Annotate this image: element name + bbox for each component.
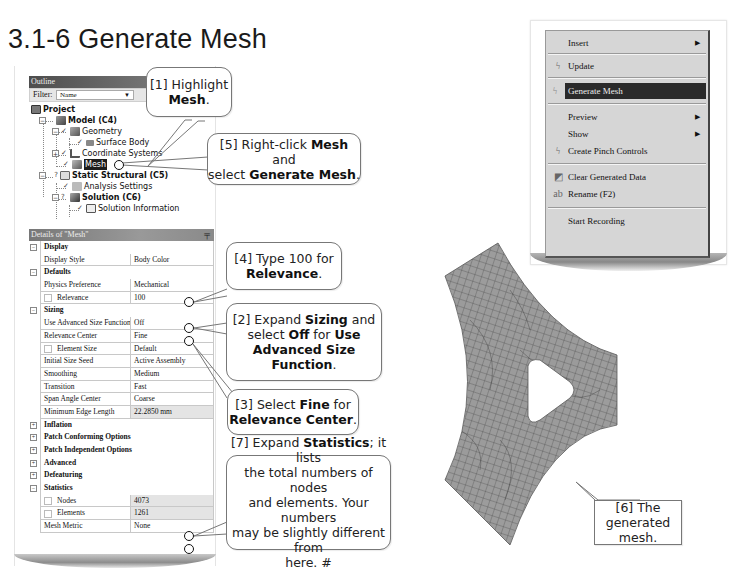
filter-dropdown[interactable]: Name ▼ (56, 90, 134, 100)
expand-toggle[interactable]: + (30, 460, 37, 467)
callout-step-6: [6] The generated mesh. (594, 500, 682, 545)
collapse-toggle[interactable]: − (39, 117, 46, 124)
details-grid: − Display Display Style Body Color − Def… (29, 241, 214, 533)
menu-item-show[interactable]: Show▶ (548, 126, 706, 142)
mesh-icon (72, 160, 82, 169)
tree-item-analysis-settings[interactable]: ✓ Analysis Settings (63, 181, 152, 192)
surface-body-icon (86, 140, 94, 146)
collapse-toggle[interactable]: − (30, 244, 37, 251)
geometry-icon (70, 127, 80, 136)
advanced-size-function-select[interactable]: Off (131, 317, 214, 330)
group-defeaturing[interactable]: + Defeaturing (29, 469, 214, 482)
step-marker-advanced-size (184, 323, 194, 333)
group-patch-independent-options[interactable]: + Patch Independent Options (29, 444, 214, 457)
context-menu: Insert▶ ϟUpdate ϟGenerate Mesh Preview▶ … (545, 30, 710, 258)
group-statistics[interactable]: − Statistics (29, 482, 214, 495)
step-marker-relevance-center (184, 336, 194, 346)
callout-step-1: [1] Highlight Mesh. (146, 67, 232, 117)
parameter-checkbox[interactable] (44, 510, 52, 518)
menu-item-start-recording[interactable]: Start Recording (548, 213, 706, 229)
page-title: 3.1-6 Generate Mesh (8, 24, 267, 55)
step-marker-nodes (184, 531, 194, 541)
project-icon (31, 105, 41, 114)
filter-label: Filter: (33, 90, 53, 99)
prop-nodes: Nodes 4073 (29, 495, 214, 508)
callout-step-2: [2] Expand Sizing and select Off for Use… (226, 303, 382, 381)
menu-item-clear-generated-data[interactable]: ◩Clear Generated Data (548, 169, 706, 185)
tree-item-static-structural[interactable]: − ? Static Structural (C5) (39, 170, 168, 181)
static-structural-icon (60, 171, 70, 180)
callout-step-4: [4] Type 100 for Relevance. (226, 242, 342, 290)
tree-item-mesh[interactable]: ✓ Mesh (63, 159, 107, 170)
checkmark-icon: ✓ (77, 137, 84, 148)
rename-icon: ab (552, 188, 564, 200)
menu-item-insert[interactable]: Insert▶ (548, 35, 706, 51)
relevance-center-select[interactable]: Fine (131, 330, 214, 343)
model-icon (56, 116, 66, 125)
menu-item-preview[interactable]: Preview▶ (548, 109, 706, 125)
group-display[interactable]: − Display (29, 241, 214, 254)
parameter-checkbox[interactable] (44, 497, 52, 505)
prop-smoothing[interactable]: Smoothing Medium (29, 368, 214, 381)
group-defaults[interactable]: − Defaults (29, 266, 214, 279)
collapse-toggle[interactable]: − (52, 194, 59, 201)
menu-item-update[interactable]: ϟUpdate (548, 58, 706, 74)
step-marker-mesh (114, 160, 124, 170)
checkmark-icon: ✓ (61, 126, 68, 137)
prop-physics-preference[interactable]: Physics Preference Mechanical (29, 279, 214, 292)
collapse-toggle[interactable]: − (52, 128, 59, 135)
parameter-checkbox[interactable] (44, 345, 52, 353)
prop-span-angle-center[interactable]: Span Angle Center Coarse (29, 393, 214, 406)
checkmark-icon: ✓ (61, 148, 68, 159)
expand-toggle[interactable]: + (30, 422, 37, 429)
submenu-arrow-icon: ▶ (695, 35, 700, 51)
lightning-icon: ϟ (549, 85, 561, 97)
analysis-settings-icon (72, 182, 82, 191)
clear-data-icon: ◩ (552, 171, 564, 183)
parameter-checkbox[interactable] (44, 294, 52, 302)
relevance-input[interactable]: 100 (131, 292, 214, 305)
collapse-toggle[interactable]: − (30, 485, 37, 492)
expand-toggle[interactable]: + (30, 434, 37, 441)
step-marker-elements (184, 544, 194, 554)
group-inflation[interactable]: + Inflation (29, 419, 214, 432)
menu-item-rename[interactable]: abRename (F2) (548, 186, 706, 202)
prop-elements: Elements 1261 (29, 507, 214, 520)
lightning-icon: ϟ (552, 60, 564, 72)
question-mark-icon: ? (48, 170, 58, 181)
tree-item-solution[interactable]: − ? Solution (C6) (52, 192, 141, 203)
collapse-toggle[interactable]: − (30, 269, 37, 276)
callout-step-5: [5] Right-click Mesh and select Generate… (207, 133, 361, 185)
tree-item-coordinate-systems[interactable]: + ✓ Coordinate Systems (52, 148, 162, 159)
prop-display-style[interactable]: Display Style Body Color (29, 254, 214, 267)
menu-item-create-pinch-controls[interactable]: ϟCreate Pinch Controls (548, 143, 706, 159)
solution-icon (70, 193, 80, 202)
lightning-icon: ϟ (552, 145, 564, 157)
filter-value: Name (60, 91, 77, 99)
step-marker-relevance (184, 297, 194, 307)
prop-minimum-edge-length: Minimum Edge Length 22.2850 mm (29, 406, 214, 419)
checkmark-icon: ✓ (63, 159, 70, 170)
callout-step-7: [7] Expand Statistics; it lists the tota… (226, 455, 391, 550)
expand-toggle[interactable]: + (52, 150, 59, 157)
tree-item-model[interactable]: − Model (C4) (39, 115, 117, 126)
group-advanced[interactable]: + Advanced (29, 457, 214, 470)
tree-item-surface-body[interactable]: ✓ Surface Body (77, 137, 149, 148)
details-panel-header: Details of "Mesh" ╤ (29, 229, 214, 241)
prop-initial-size-seed[interactable]: Initial Size Seed Active Assembly (29, 355, 214, 368)
expand-toggle[interactable]: + (30, 447, 37, 454)
chevron-down-icon: ▼ (124, 91, 130, 99)
submenu-arrow-icon: ▶ (695, 126, 700, 142)
collapse-toggle[interactable]: − (39, 172, 46, 179)
callout-step-3: [3] Select Fine for Relevance Center. (227, 389, 359, 435)
collapse-toggle[interactable]: − (30, 307, 37, 314)
solution-information-icon (86, 204, 96, 213)
pin-icon[interactable]: ╤ (204, 229, 210, 241)
tree-item-project[interactable]: Project (31, 104, 75, 115)
tree-item-geometry[interactable]: − ✓ Geometry (52, 126, 122, 137)
tree-item-solution-information[interactable]: ✓ Solution Information (77, 203, 179, 214)
group-patch-conforming-options[interactable]: + Patch Conforming Options (29, 431, 214, 444)
menu-item-generate-mesh[interactable]: ϟGenerate Mesh (565, 83, 706, 99)
expand-toggle[interactable]: + (30, 472, 37, 479)
prop-transition[interactable]: Transition Fast (29, 381, 214, 394)
